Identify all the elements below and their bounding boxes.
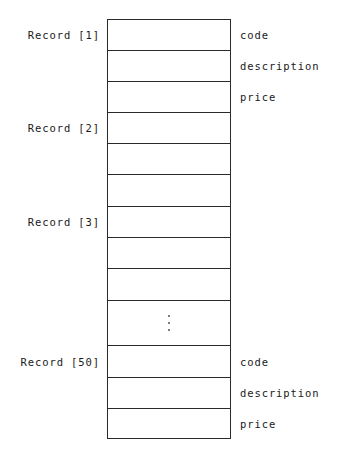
record-50-label: Record [50] bbox=[21, 356, 100, 368]
record-array-diagram: Record [1] Record [2] Record [3] Record … bbox=[0, 0, 338, 455]
record-3-price-cell bbox=[108, 269, 230, 301]
record-3-label: Record [3] bbox=[28, 216, 100, 228]
record-1-field-code: code bbox=[240, 29, 269, 41]
record-50-price-cell bbox=[108, 409, 230, 440]
record-3-description-cell bbox=[108, 238, 230, 269]
array-block bbox=[107, 19, 231, 439]
record-1-code-cell bbox=[108, 20, 230, 51]
record-3-code-cell bbox=[108, 207, 230, 238]
record-1-price-cell bbox=[108, 82, 230, 113]
record-2-label: Record [2] bbox=[28, 122, 100, 134]
record-2-code-cell bbox=[108, 113, 230, 144]
record-50-field-code: code bbox=[240, 356, 269, 368]
record-50-description-cell bbox=[108, 378, 230, 409]
record-50-code-cell bbox=[108, 346, 230, 378]
record-1-label: Record [1] bbox=[28, 29, 100, 41]
record-1-field-price: price bbox=[240, 91, 276, 103]
record-1-description-cell bbox=[108, 51, 230, 82]
record-1-field-description: description bbox=[240, 60, 319, 72]
vertical-ellipsis-icon bbox=[168, 315, 170, 336]
ellipsis-cell bbox=[108, 301, 230, 346]
record-2-price-cell bbox=[108, 175, 230, 207]
record-50-field-description: description bbox=[240, 387, 319, 399]
record-50-field-price: price bbox=[240, 418, 276, 430]
record-2-description-cell bbox=[108, 144, 230, 175]
